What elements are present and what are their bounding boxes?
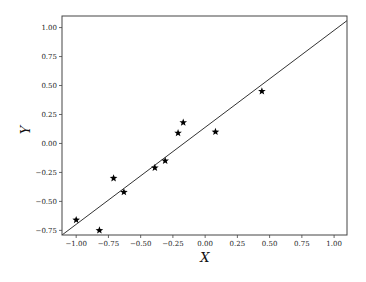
x-tick-label: −0.50 (130, 240, 151, 248)
x-tick-label: 0.25 (230, 240, 246, 248)
data-point-star-icon (212, 128, 220, 135)
scatter-chart: −1.00−0.75−0.50−0.250.000.250.500.751.00… (0, 0, 366, 282)
x-axis-ticks: −1.00−0.75−0.50−0.250.000.250.500.751.00 (65, 235, 341, 248)
x-tick-label: 0.00 (197, 240, 213, 248)
y-tick-label: 0.25 (41, 111, 57, 119)
y-tick-label: 1.00 (41, 24, 57, 32)
x-axis-label: X (199, 250, 210, 265)
data-point-star-icon (258, 87, 266, 94)
data-point-star-icon (120, 188, 128, 195)
data-point-star-icon (96, 226, 104, 233)
data-point-star-icon (161, 157, 169, 164)
y-tick-label: 0.75 (41, 53, 57, 61)
data-point-star-icon (110, 174, 118, 181)
fit-line (62, 21, 347, 235)
y-tick-label: 0.50 (41, 82, 57, 90)
x-tick-label: 1.00 (326, 240, 342, 248)
y-tick-label: −0.25 (36, 169, 57, 177)
x-tick-label: 0.75 (294, 240, 310, 248)
x-tick-label: 0.50 (262, 240, 278, 248)
data-point-star-icon (151, 164, 159, 171)
x-tick-label: −0.25 (162, 240, 183, 248)
plot-area (62, 16, 347, 235)
y-axis-ticks: −0.75−0.50−0.250.000.250.500.751.00 (36, 24, 62, 235)
y-axis-label: Y (18, 124, 33, 134)
y-tick-label: −0.75 (36, 227, 57, 235)
y-tick-label: −0.50 (36, 198, 57, 206)
data-point-star-icon (174, 129, 182, 136)
data-point-star-icon (179, 119, 187, 126)
y-tick-label: 0.00 (41, 140, 57, 148)
x-tick-label: −0.75 (98, 240, 119, 248)
x-tick-label: −1.00 (65, 240, 86, 248)
axes-frame (62, 16, 347, 235)
